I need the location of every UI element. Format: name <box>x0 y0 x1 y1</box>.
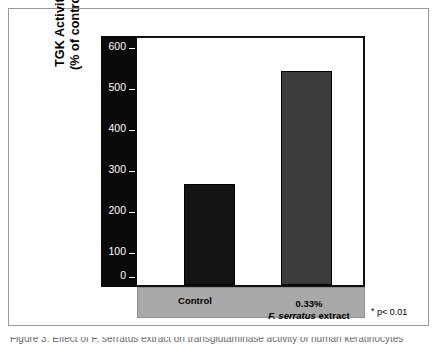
y-tick-label: 600 <box>108 40 126 52</box>
x-category-label-line2: F. serratus extract <box>252 310 366 322</box>
y-tick-label: 200 <box>108 204 126 216</box>
y-axis-title-line2: (% of control) <box>68 0 83 99</box>
y-tick-mark <box>129 89 135 90</box>
y-tick-100: 100 <box>108 245 135 257</box>
figure-caption-clipped: Figure 3. Effect of F. serratus extract … <box>10 337 429 347</box>
y-tick-400: 400 <box>108 122 135 134</box>
y-tick-label: 300 <box>108 163 126 175</box>
y-tick-200: 200 <box>108 204 135 216</box>
y-axis-title: TGK Activity (% of control) <box>53 0 84 99</box>
y-axis-panel: 600 500 400 300 200 100 0 <box>101 36 137 287</box>
figure-outer-frame: 600 500 400 300 200 100 0 TGK Activity <box>8 8 429 326</box>
x-category-label-extract: 0.33% F. serratus extract <box>252 298 366 322</box>
y-tick-mark <box>129 171 135 172</box>
y-tick-label: 0 <box>120 269 126 281</box>
figure-caption-text: Figure 3. Effect of F. serratus extract … <box>10 337 403 345</box>
y-tick-mark <box>129 277 135 278</box>
y-tick-mark <box>129 48 135 49</box>
species-name-italic: F. serratus <box>268 310 316 321</box>
x-category-label-line1: 0.33% <box>252 298 366 310</box>
x-category-label-control: Control <box>138 295 252 307</box>
y-axis-title-line1: TGK Activity <box>53 0 68 99</box>
footnote-text: p< 0.01 <box>375 307 408 317</box>
bar-fserratus-extract <box>281 71 332 285</box>
x-category-label-line1: Control <box>138 295 252 307</box>
y-tick-label: 100 <box>108 245 126 257</box>
significance-footnote: * p< 0.01 <box>371 307 407 317</box>
y-tick-mark <box>129 253 135 254</box>
plot-area <box>101 36 365 287</box>
y-tick-0: 0 <box>120 269 135 281</box>
asterisk-icon: * <box>371 306 375 316</box>
y-tick-600: 600 <box>108 40 135 52</box>
y-tick-mark <box>129 212 135 213</box>
y-tick-500: 500 <box>108 81 135 93</box>
bar-control <box>184 184 235 285</box>
y-tick-label: 400 <box>108 122 126 134</box>
y-tick-mark <box>129 130 135 131</box>
x-axis-category-band: Control 0.33% F. serratus extract <box>137 287 365 318</box>
species-name-suffix: extract <box>316 310 350 321</box>
figure-container: 600 500 400 300 200 100 0 TGK Activity <box>0 0 439 347</box>
y-tick-300: 300 <box>108 163 135 175</box>
y-tick-label: 500 <box>108 81 126 93</box>
